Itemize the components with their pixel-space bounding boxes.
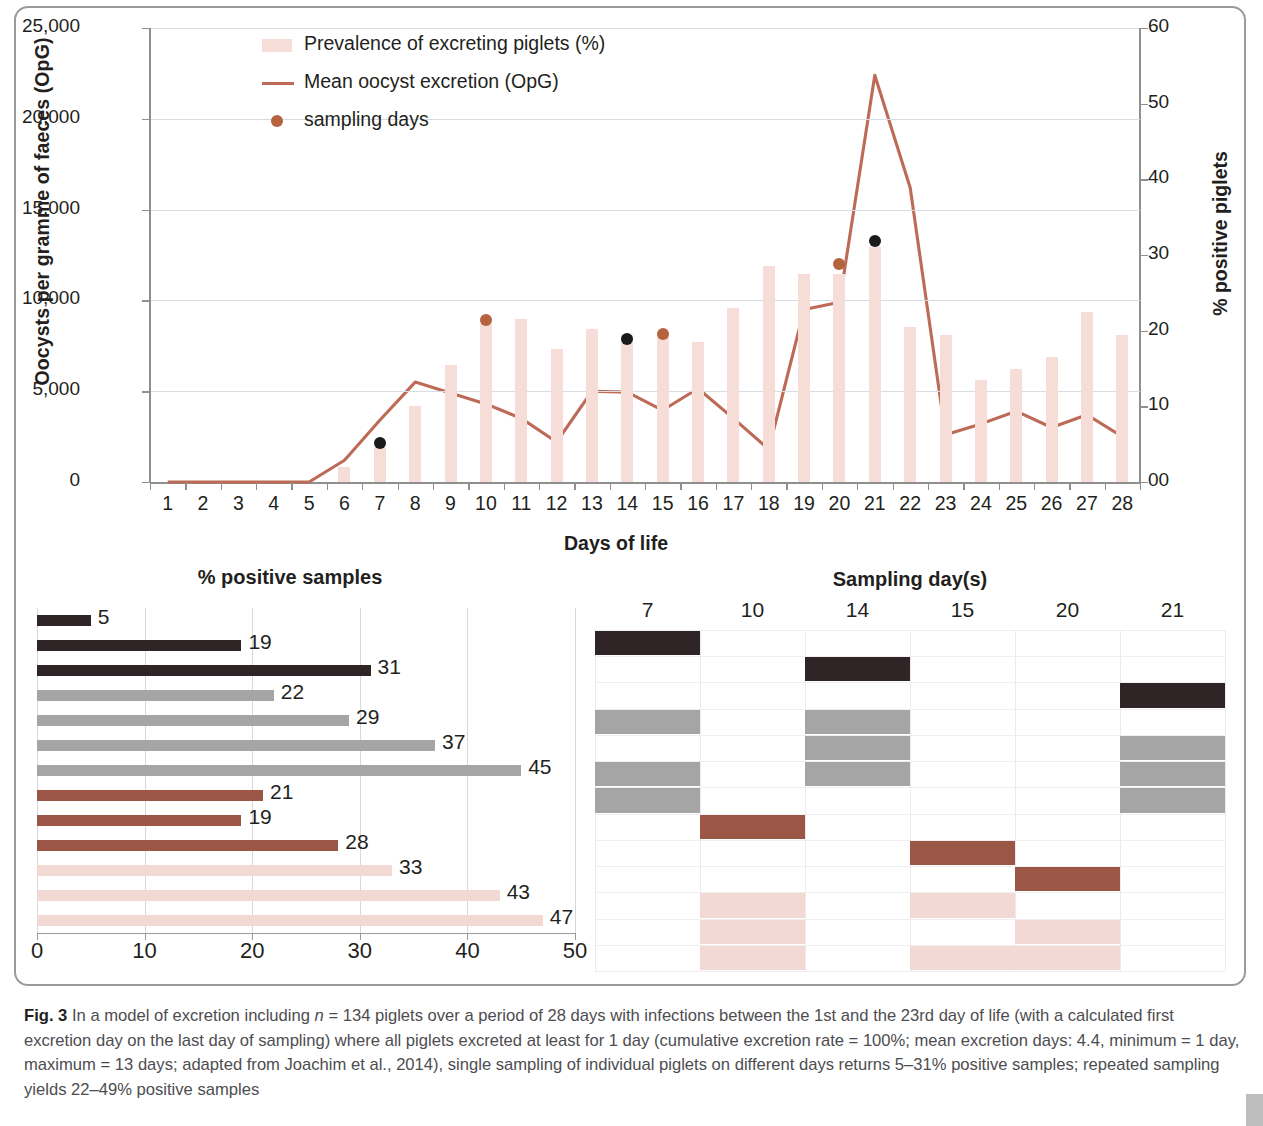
positive-samples-bar (37, 740, 435, 751)
x-tick-label: 8 (395, 492, 435, 515)
prevalence-bar (374, 444, 386, 482)
x-tick-mark (645, 482, 646, 490)
prevalence-bar (904, 327, 916, 482)
y-tick-label-right: 10 (1148, 393, 1208, 415)
positive-samples-bar-label: 31 (378, 655, 401, 679)
gridline (150, 210, 1140, 211)
y-tick-mark-left (142, 210, 151, 211)
y-tick-mark-right (1139, 179, 1148, 180)
y-tick-mark-right (1139, 406, 1148, 407)
matrix-column-header: 15 (918, 598, 1008, 622)
x-tick-mark (716, 482, 717, 490)
prevalence-bar (833, 274, 845, 482)
matrix-cell (910, 946, 1015, 970)
y-tick-label-left: 15,000 (0, 197, 80, 219)
x-tick-label: 22 (890, 492, 930, 515)
matrix-cell (805, 710, 910, 734)
matrix-gridline-horizontal (595, 971, 1225, 972)
x-tick-mark (398, 482, 399, 490)
x-tick-label: 27 (1067, 492, 1107, 515)
matrix-gridline-horizontal (595, 656, 1225, 657)
combo-plot-area (150, 28, 1140, 482)
matrix-cell (1120, 683, 1225, 707)
matrix-gridline-horizontal (595, 814, 1225, 815)
prevalence-bar (1010, 369, 1022, 483)
sampling-day-matrix-title: Sampling day(s) (588, 568, 1232, 591)
matrix-column-header: 14 (813, 598, 903, 622)
x-tick-label: 3 (218, 492, 258, 515)
positive-samples-bar (37, 840, 338, 851)
matrix-gridline-vertical (910, 630, 911, 971)
prevalence-bar (586, 329, 598, 482)
matrix-cell (805, 736, 910, 760)
positive-samples-bar (37, 865, 392, 876)
x-tick-label: 13 (572, 492, 612, 515)
x-tick-label: 11 (501, 492, 541, 515)
mean-excretion-line (150, 28, 1140, 483)
y-tick-label-left: 10,000 (0, 287, 80, 309)
legend-label-mean-excretion: Mean oocyst excretion (OpG) (304, 70, 559, 93)
matrix-cell (595, 631, 700, 655)
x-tick-label: 24 (961, 492, 1001, 515)
x-tick-label: 20 (819, 492, 859, 515)
combo-chart-panel: Oocysts per gramme of faeces (OpG) % pos… (0, 0, 1232, 560)
x-tick-label: 1 (148, 492, 188, 515)
positive-samples-bar-label: 45 (528, 755, 551, 779)
positive-samples-bar (37, 615, 91, 626)
matrix-cell (1015, 946, 1120, 970)
matrix-cell (805, 657, 910, 681)
positive-samples-bar-label: 47 (550, 905, 573, 929)
y-tick-label-right: 40 (1148, 166, 1208, 188)
hbar-gridline (575, 608, 576, 933)
positive-samples-axis (37, 933, 575, 934)
y-tick-mark-right (1139, 331, 1148, 332)
x-tick-mark (857, 482, 858, 490)
x-tick-label: 16 (678, 492, 718, 515)
positive-samples-bar (37, 715, 349, 726)
matrix-gridline-horizontal (595, 919, 1225, 920)
x-tick-mark (468, 482, 469, 490)
x-tick-mark (963, 482, 964, 490)
positive-samples-bar (37, 815, 241, 826)
prevalence-bar (940, 335, 952, 482)
gridline (150, 119, 1140, 120)
prevalence-bar (727, 308, 739, 482)
positive-samples-bar-label: 33 (399, 855, 422, 879)
gridline (150, 28, 1140, 29)
prevalence-bar (621, 335, 633, 482)
sampling-day-matrix-panel: Sampling day(s) 71014152021 (588, 560, 1232, 985)
matrix-cell (595, 710, 700, 734)
figure-caption: Fig. 3 In a model of excretion including… (24, 1004, 1242, 1102)
bar-swatch-icon (262, 39, 292, 52)
y-tick-label-left: 20,000 (0, 106, 80, 128)
prevalence-bar (1081, 312, 1093, 482)
positive-samples-bar-label: 19 (248, 805, 271, 829)
prevalence-bar (338, 467, 350, 482)
matrix-cell (595, 788, 700, 812)
y-tick-label-right: 30 (1148, 242, 1208, 264)
legend-label-sampling-days: sampling days (304, 108, 429, 131)
matrix-column-header: 20 (1023, 598, 1113, 622)
x-tick-label: 19 (784, 492, 824, 515)
gridline (150, 300, 1140, 301)
positive-samples-bar-label: 28 (345, 830, 368, 854)
matrix-column-header: 21 (1128, 598, 1218, 622)
sampling-day-dot (374, 437, 386, 449)
prevalence-bar (515, 319, 527, 482)
x-tick-label: 9 (431, 492, 471, 515)
y-tick-mark-right (1139, 104, 1148, 105)
y-tick-mark-right (1139, 28, 1148, 29)
figure-label: Fig. 3 (24, 1006, 67, 1025)
x-tick-mark (574, 482, 575, 490)
matrix-cell (700, 920, 805, 944)
matrix-cell (910, 893, 1015, 917)
x-tick-mark (786, 482, 787, 490)
sampling-day-matrix-grid (595, 630, 1225, 971)
x-tick-mark (362, 482, 363, 490)
matrix-cell (700, 893, 805, 917)
x-tick-label: 5 (289, 492, 329, 515)
positive-samples-title: % positive samples (0, 566, 580, 589)
prevalence-bar (798, 274, 810, 482)
prevalence-bar (1046, 357, 1058, 482)
matrix-cell (700, 946, 805, 970)
